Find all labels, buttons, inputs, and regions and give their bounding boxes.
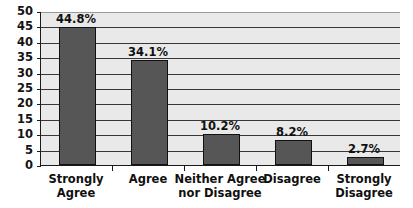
- x-category-label: Disagree: [263, 172, 321, 186]
- x-category-label: StronglyAgree: [48, 172, 103, 200]
- y-tick-label: 10: [17, 129, 33, 141]
- bar: [131, 60, 168, 165]
- x-tick-mark: [112, 166, 113, 171]
- bar-value-label: 8.2%: [276, 127, 308, 139]
- y-tick-mark: [37, 12, 41, 13]
- y-tick-label: 30: [17, 68, 33, 80]
- x-category-label: StronglyDisagree: [335, 172, 393, 200]
- x-category-label-line: Strongly: [48, 172, 103, 186]
- x-tick-mark: [328, 166, 329, 171]
- y-tick-mark: [37, 120, 41, 121]
- bar: [275, 140, 312, 165]
- x-category-label-line: Disagree: [335, 186, 393, 200]
- y-tick-label: 35: [17, 52, 33, 64]
- bar: [59, 27, 96, 165]
- x-tick-mark: [256, 166, 257, 171]
- plot-area: [40, 12, 400, 166]
- y-tick-mark: [37, 89, 41, 90]
- y-tick-mark: [37, 135, 41, 136]
- x-category-label-line: Strongly: [335, 172, 393, 186]
- y-tick-mark: [37, 166, 41, 167]
- x-category-label-line: nor Disagree: [175, 186, 266, 200]
- x-tick-mark: [184, 166, 185, 171]
- bar-chart: 05101520253035404550 44.8%StronglyAgree3…: [0, 0, 413, 208]
- y-tick-mark: [37, 27, 41, 28]
- x-category-label-line: Agree: [129, 172, 167, 186]
- x-category-label: Neither Agreenor Disagree: [175, 172, 266, 200]
- bar: [347, 157, 384, 165]
- y-tick-mark: [37, 104, 41, 105]
- x-category-label-line: Agree: [48, 186, 103, 200]
- y-tick-label: 40: [17, 37, 33, 49]
- bar-value-label: 34.1%: [128, 47, 168, 59]
- y-tick-mark: [37, 74, 41, 75]
- y-tick-mark: [37, 151, 41, 152]
- y-tick-label: 5: [25, 145, 33, 157]
- y-tick-label: 15: [17, 114, 33, 126]
- y-tick-label: 0: [25, 160, 33, 172]
- bar-value-label: 10.2%: [200, 121, 240, 133]
- bar-value-label: 44.8%: [56, 14, 96, 26]
- y-tick-mark: [37, 43, 41, 44]
- y-tick-label: 20: [17, 99, 33, 111]
- bar-value-label: 2.7%: [348, 144, 380, 156]
- x-category-label-line: Disagree: [263, 172, 321, 186]
- y-tick-label: 50: [17, 6, 33, 18]
- bar: [203, 134, 240, 165]
- x-category-label-line: Neither Agree: [175, 172, 266, 186]
- y-tick-label: 25: [17, 83, 33, 95]
- y-tick-label: 45: [17, 22, 33, 34]
- x-category-label: Agree: [129, 172, 167, 186]
- y-axis: 05101520253035404550: [0, 0, 38, 208]
- y-tick-mark: [37, 58, 41, 59]
